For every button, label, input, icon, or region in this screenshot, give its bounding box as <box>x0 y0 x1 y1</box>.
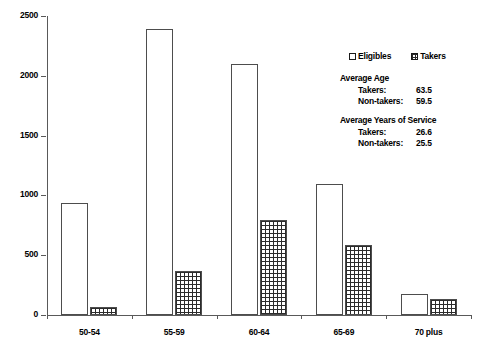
y-axis-tick-label: 500 <box>24 249 38 259</box>
y-axis-tick-label: 2500 <box>20 10 38 20</box>
bar-eligibles-65-69 <box>316 184 343 315</box>
bar-takers-65-69 <box>345 245 372 315</box>
legend: Eligibles Takers <box>349 51 446 61</box>
x-axis-line <box>47 315 471 316</box>
x-axis-tick-mark <box>132 315 133 319</box>
annotation-block-average-years-of-service: Average Years of Service Takers: 26.6 No… <box>340 115 450 148</box>
y-axis-tick-mark <box>41 16 46 17</box>
annotation-label: Takers: <box>340 127 416 137</box>
x-axis-tick-mark <box>47 315 48 319</box>
annotation-label: Non-takers: <box>340 138 416 148</box>
y-axis-tick-mark <box>41 255 46 256</box>
annotation-value: 59.5 <box>416 96 450 106</box>
annotation-title: Average Years of Service <box>340 115 450 125</box>
bar-chart: 05001000150020002500 50-5455-5960-6465-6… <box>0 0 477 350</box>
annotation-row: Non-takers: 25.5 <box>340 138 450 148</box>
annotation-row: Takers: 63.5 <box>340 85 450 95</box>
x-axis-tick-mark <box>386 315 387 319</box>
y-axis-tick-label: 1500 <box>20 130 38 140</box>
x-axis-label-65-69: 65-69 <box>333 327 354 337</box>
x-axis-label-50-54: 50-54 <box>79 327 100 337</box>
y-axis-tick-mark <box>41 315 46 316</box>
bar-takers-55-59 <box>175 271 202 315</box>
bar-eligibles-50-54 <box>61 203 88 315</box>
annotation-value: 63.5 <box>416 85 450 95</box>
bar-eligibles-70-plus <box>401 294 428 315</box>
bar-takers-50-54 <box>90 307 117 315</box>
annotation-label: Non-takers: <box>340 96 416 106</box>
annotation-row: Takers: 26.6 <box>340 127 450 137</box>
annotation-block-average-age: Average Age Takers: 63.5 Non-takers: 59.… <box>340 73 450 106</box>
annotation-value: 25.5 <box>416 138 450 148</box>
annotations-panel: Average Age Takers: 63.5 Non-takers: 59.… <box>340 73 450 157</box>
annotation-title: Average Age <box>340 73 450 83</box>
x-axis-label-60-64: 60-64 <box>249 327 270 337</box>
y-axis-tick-mark <box>41 195 46 196</box>
bar-takers-70-plus <box>430 299 457 315</box>
y-axis-tick-label: 0 <box>33 309 38 319</box>
annotation-value: 26.6 <box>416 127 450 137</box>
bar-takers-60-64 <box>260 220 287 315</box>
y-axis-tick-mark <box>41 136 46 137</box>
x-axis-tick-mark <box>217 315 218 319</box>
bar-eligibles-55-59 <box>146 29 173 315</box>
legend-label-eligibles: Eligibles <box>358 51 391 61</box>
x-axis-label-55-59: 55-59 <box>164 327 185 337</box>
legend-entry-takers: Takers <box>411 51 446 61</box>
x-axis-tick-mark <box>471 315 472 319</box>
annotation-label: Takers: <box>340 85 416 95</box>
y-axis-tick-label: 2000 <box>20 70 38 80</box>
x-axis-label-70-plus: 70 plus <box>415 327 443 337</box>
legend-entry-eligibles: Eligibles <box>349 51 391 61</box>
annotation-row: Non-takers: 59.5 <box>340 96 450 106</box>
legend-label-takers: Takers <box>420 51 446 61</box>
x-axis-tick-mark <box>301 315 302 319</box>
legend-swatch-hatched-square-icon <box>411 53 418 60</box>
y-axis-tick-label: 1000 <box>20 189 38 199</box>
y-axis-tick-mark <box>41 76 46 77</box>
legend-swatch-open-square-icon <box>349 53 356 60</box>
bar-eligibles-60-64 <box>231 64 258 315</box>
